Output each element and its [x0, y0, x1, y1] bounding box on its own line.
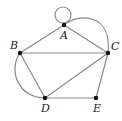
edge-a-c-straight — [64, 25, 108, 53]
node-e — [94, 96, 98, 100]
edge-c-d — [45, 53, 108, 98]
graph-diagram: A B C D E — [0, 0, 122, 121]
edge-b-d-curved — [15, 53, 45, 98]
label-a: A — [59, 29, 68, 42]
node-a — [62, 23, 66, 27]
label-c: C — [111, 40, 120, 53]
node-c — [106, 51, 110, 55]
edge-loop-a — [55, 7, 71, 23]
label-d: D — [40, 102, 50, 115]
label-b: B — [9, 39, 18, 52]
edge-a-c-curved — [64, 18, 108, 53]
edge-a-b — [20, 25, 64, 53]
node-d — [43, 96, 47, 100]
label-e: E — [92, 102, 101, 115]
edge-b-d-straight — [20, 53, 45, 98]
node-b — [18, 51, 22, 55]
